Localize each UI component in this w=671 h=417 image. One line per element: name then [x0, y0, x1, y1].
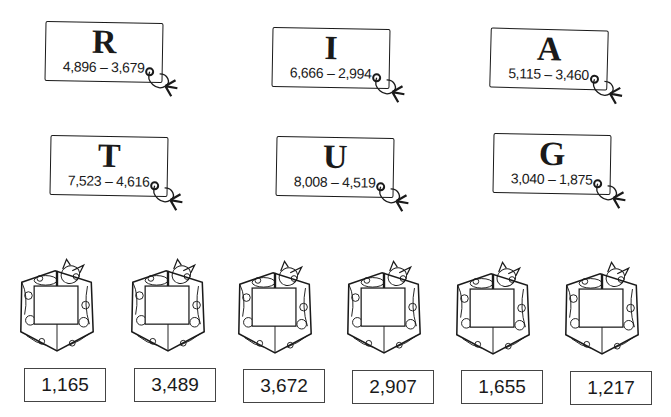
gift-box-2 — [128, 252, 208, 362]
tag-letter: G — [494, 136, 611, 172]
tag-string-icon — [588, 73, 629, 110]
answer-box-4: 2,907 — [352, 370, 434, 404]
answer-box-2: 3,489 — [134, 368, 216, 402]
tag-i: I 6,666 – 2,994 — [271, 27, 390, 89]
tag-string-icon — [143, 66, 184, 103]
answer-box-6: 1,217 — [570, 371, 652, 405]
tag-string-icon — [148, 180, 189, 217]
gift-box-3 — [235, 254, 315, 364]
tag-a: A 5,115 – 3,460 — [489, 27, 609, 90]
tag-t: T 7,523 – 4,616 — [49, 135, 168, 197]
tag-string-icon — [370, 72, 411, 109]
tag-letter: U — [277, 139, 394, 175]
gift-box-5 — [453, 255, 533, 365]
tag-string-icon — [591, 178, 632, 215]
tag-letter: T — [51, 138, 168, 174]
gift-box-6 — [562, 255, 642, 365]
gift-box-1 — [17, 252, 97, 362]
answer-box-3: 3,672 — [243, 369, 325, 403]
tag-string-icon — [374, 181, 415, 218]
answer-box-1: 1,165 — [24, 368, 106, 402]
tag-g: G 3,040 – 1,875 — [492, 133, 611, 195]
answer-box-5: 1,655 — [461, 370, 543, 404]
tag-letter: R — [46, 24, 163, 60]
tag-letter: A — [491, 30, 608, 67]
tag-r: R 4,896 – 3,679 — [44, 21, 163, 83]
tag-letter: I — [273, 30, 390, 66]
gift-box-4 — [344, 254, 424, 364]
tag-u: U 8,008 – 4,519 — [275, 136, 394, 198]
